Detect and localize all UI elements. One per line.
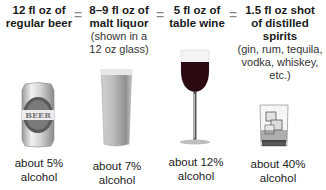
malt-note-line-2: 12 oz glass) xyxy=(84,43,154,56)
beer-heading-line-1: 12 fl oz of xyxy=(0,4,78,17)
wine-heading-line-2: table wine xyxy=(166,17,228,30)
malt-alcohol-label: alcohol xyxy=(82,173,152,187)
drink-spirits-header: 1.5 fl oz shot of distilled spirits (gin… xyxy=(234,4,326,82)
equals-sign: = xyxy=(74,7,82,23)
spirits-alcohol-content: about 40% alcohol xyxy=(245,157,311,185)
drink-malt-liquor-header: 8–9 fl oz of malt liquor (shown in a 12 … xyxy=(84,4,154,56)
beer-alcohol-content: about 5% alcohol xyxy=(0,156,78,184)
drink-beer-header: 12 fl oz of regular beer xyxy=(0,4,78,30)
malt-percent: about 7% xyxy=(82,159,152,173)
wine-fill xyxy=(181,62,209,92)
beer-can-icon: BEER xyxy=(20,82,56,148)
wine-alcohol-content: about 12% alcohol xyxy=(163,155,229,183)
malt-heading-line-2: malt liquor xyxy=(84,17,154,30)
equals-sign: = xyxy=(156,7,164,23)
spirits-heading-line-3: spirits xyxy=(234,30,326,43)
wine-percent: about 12% xyxy=(163,155,229,169)
drink-wine-header: 5 fl oz of table wine xyxy=(166,4,228,30)
malt-alcohol-content: about 7% alcohol xyxy=(82,159,152,187)
malt-heading-line-1: 8–9 fl oz of xyxy=(84,4,154,17)
malt-note-line-1: (shown in a xyxy=(84,30,154,43)
spirits-alcohol-label: alcohol xyxy=(245,171,311,185)
wine-glass-icon xyxy=(178,48,212,148)
spirits-note-line-2: vodka, whiskey, etc.) xyxy=(234,56,326,82)
rocks-glass-icon xyxy=(259,104,289,148)
wine-heading-line-1: 5 fl oz of xyxy=(166,4,228,17)
spirits-percent: about 40% xyxy=(245,157,311,171)
beer-heading-line-2: regular beer xyxy=(0,17,78,30)
beer-percent: about 5% xyxy=(0,156,78,170)
wine-alcohol-label: alcohol xyxy=(163,169,229,183)
can-label: BEER xyxy=(25,110,51,120)
spirits-note-line-1: (gin, rum, tequila, xyxy=(234,43,326,56)
pint-glass-icon xyxy=(100,68,133,148)
beer-alcohol-label: alcohol xyxy=(0,170,78,184)
spirits-heading-line-2: of distilled xyxy=(234,17,326,30)
spirits-heading-line-1: 1.5 fl oz shot xyxy=(234,4,326,17)
